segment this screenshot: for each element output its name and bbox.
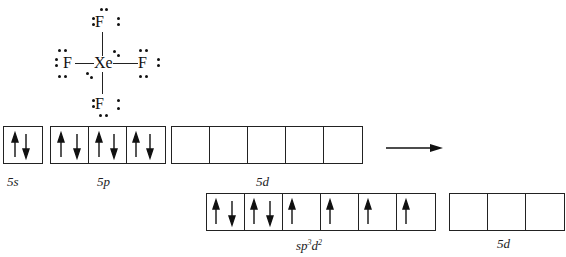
electron-spin-arrows <box>0 0 566 257</box>
reaction-arrow-icon <box>386 144 443 152</box>
spin-arrows <box>12 133 409 225</box>
